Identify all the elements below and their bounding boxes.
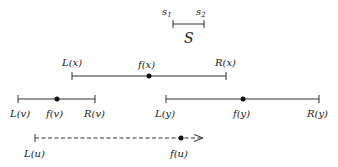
left-label-x: L(x): [61, 57, 82, 68]
point-f-y: [241, 97, 246, 102]
point-f-u: [179, 136, 184, 141]
interval-diagram: s1 s2 S L(x) f(x) R(x) L(v) f(v) R(v) L(…: [0, 0, 338, 167]
set-s-label: S: [184, 30, 194, 46]
s2-label: s2: [196, 6, 206, 19]
point-f-v: [55, 97, 60, 102]
center-label-y: f(y): [232, 108, 250, 119]
set-s-group: s1 s2 S: [162, 6, 206, 46]
left-label-y: L(y): [154, 108, 175, 119]
right-label-v: R(v): [83, 108, 105, 119]
interval-y: L(y) f(y) R(y): [154, 95, 328, 119]
center-label-u: f(u): [169, 148, 188, 159]
left-label-v: L(v): [9, 108, 30, 119]
point-f-x: [147, 74, 152, 79]
center-label-x: f(x): [137, 59, 155, 70]
interval-x: L(x) f(x) R(x): [61, 57, 236, 80]
interval-u: L(u) f(u): [23, 134, 203, 159]
s1-label: s1: [162, 6, 172, 19]
interval-v: L(v) f(v) R(v): [9, 95, 105, 119]
left-label-u: L(u): [23, 148, 45, 159]
center-label-v: f(v): [45, 108, 63, 119]
right-label-x: R(x): [214, 57, 236, 68]
right-label-y: R(y): [306, 108, 328, 119]
